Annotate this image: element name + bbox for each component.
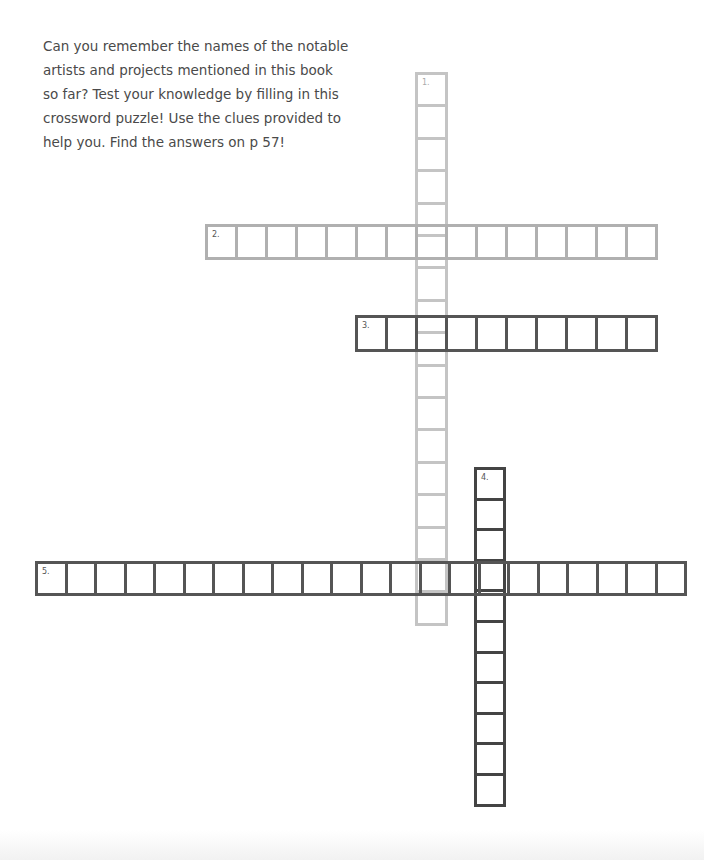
crossword-cell[interactable] bbox=[94, 561, 127, 596]
crossword-cell[interactable] bbox=[415, 224, 448, 260]
clue-number: 4. bbox=[481, 473, 489, 482]
crossword-cell[interactable]: 1. bbox=[415, 72, 448, 107]
crossword-cell[interactable] bbox=[360, 561, 393, 596]
crossword-cell[interactable] bbox=[415, 315, 448, 352]
crossword-cell[interactable] bbox=[445, 224, 478, 260]
crossword-cell[interactable] bbox=[415, 493, 448, 528]
crossword-cell[interactable] bbox=[295, 224, 328, 260]
crossword-cell[interactable] bbox=[448, 561, 481, 596]
crossword-cell[interactable]: 3. bbox=[355, 315, 388, 352]
crossword-cell[interactable] bbox=[415, 266, 448, 301]
crossword-cell[interactable] bbox=[419, 561, 452, 596]
crossword-cell[interactable] bbox=[124, 561, 157, 596]
crossword-cell[interactable] bbox=[415, 104, 448, 139]
crossword-cell[interactable] bbox=[212, 561, 245, 596]
instructions-line: crossword puzzle! Use the clues provided… bbox=[43, 106, 373, 130]
crossword-cell[interactable] bbox=[655, 561, 688, 596]
crossword-cell[interactable] bbox=[415, 169, 448, 204]
crossword-cell[interactable] bbox=[535, 315, 568, 352]
crossword-cell[interactable] bbox=[415, 364, 448, 399]
clue-number: 2. bbox=[212, 230, 220, 239]
crossword-cell[interactable] bbox=[507, 561, 540, 596]
crossword-cell[interactable] bbox=[566, 561, 599, 596]
crossword-cell[interactable] bbox=[565, 315, 598, 352]
crossword-cell[interactable]: 5. bbox=[35, 561, 68, 596]
clue-number: 1. bbox=[422, 78, 430, 87]
crossword-cell[interactable] bbox=[596, 561, 629, 596]
clue-number: 5. bbox=[42, 567, 50, 576]
crossword-cell[interactable] bbox=[595, 224, 628, 260]
crossword-cell[interactable] bbox=[415, 137, 448, 172]
crossword-cell[interactable] bbox=[415, 396, 448, 431]
crossword-cell[interactable] bbox=[625, 224, 658, 260]
crossword-cell[interactable] bbox=[355, 224, 388, 260]
crossword-cell[interactable] bbox=[330, 561, 363, 596]
instructions-line: artists and projects mentioned in this b… bbox=[43, 58, 373, 82]
crossword-cell[interactable]: 2. bbox=[205, 224, 238, 260]
crossword-cell[interactable] bbox=[505, 224, 538, 260]
crossword-cell[interactable] bbox=[505, 315, 538, 352]
crossword-cell[interactable]: 4. bbox=[474, 467, 506, 501]
crossword-cell[interactable] bbox=[474, 620, 506, 654]
crossword-cell[interactable] bbox=[183, 561, 216, 596]
clue-number: 3. bbox=[362, 321, 370, 330]
crossword-cell[interactable] bbox=[474, 681, 506, 715]
crossword-cell[interactable] bbox=[389, 561, 422, 596]
crossword-cell[interactable] bbox=[537, 561, 570, 596]
crossword-cell[interactable] bbox=[474, 498, 506, 532]
crossword-cell[interactable] bbox=[474, 528, 506, 562]
crossword-cell[interactable] bbox=[474, 712, 506, 746]
crossword-cell[interactable] bbox=[625, 315, 658, 352]
crossword-cell[interactable] bbox=[595, 315, 628, 352]
crossword-cell[interactable] bbox=[385, 224, 418, 260]
instructions-line: so far? Test your knowledge by filling i… bbox=[43, 82, 373, 106]
instructions-line: Can you remember the names of the notabl… bbox=[43, 34, 373, 58]
crossword-cell[interactable] bbox=[478, 561, 511, 596]
crossword-cell[interactable] bbox=[235, 224, 268, 260]
crossword-cell[interactable] bbox=[265, 224, 298, 260]
crossword-cell[interactable] bbox=[242, 561, 275, 596]
crossword-cell[interactable] bbox=[445, 315, 478, 352]
crossword-cell[interactable] bbox=[65, 561, 98, 596]
crossword-cell[interactable] bbox=[415, 461, 448, 496]
crossword-cell[interactable] bbox=[415, 526, 448, 561]
crossword-cell[interactable] bbox=[474, 773, 506, 807]
crossword-cell[interactable] bbox=[565, 224, 598, 260]
instructions-paragraph: Can you remember the names of the notabl… bbox=[43, 34, 373, 154]
crossword-cell[interactable] bbox=[385, 315, 418, 352]
crossword-cell[interactable] bbox=[271, 561, 304, 596]
crossword-cell[interactable] bbox=[625, 561, 658, 596]
instructions-line: help you. Find the answers on p 57! bbox=[43, 130, 373, 154]
crossword-cell[interactable] bbox=[415, 428, 448, 463]
page-edge-shadow bbox=[0, 830, 704, 860]
crossword-cell[interactable] bbox=[475, 315, 508, 352]
crossword-cell[interactable] bbox=[475, 224, 508, 260]
crossword-cell[interactable] bbox=[325, 224, 358, 260]
crossword-cell[interactable] bbox=[301, 561, 334, 596]
crossword-cell[interactable] bbox=[535, 224, 568, 260]
crossword-cell[interactable] bbox=[474, 651, 506, 685]
crossword-cell[interactable] bbox=[474, 742, 506, 776]
crossword-cell[interactable] bbox=[153, 561, 186, 596]
